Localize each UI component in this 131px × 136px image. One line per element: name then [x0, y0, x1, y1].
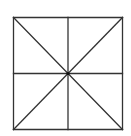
center-point: [66, 72, 69, 75]
square-diagram: [0, 0, 131, 136]
